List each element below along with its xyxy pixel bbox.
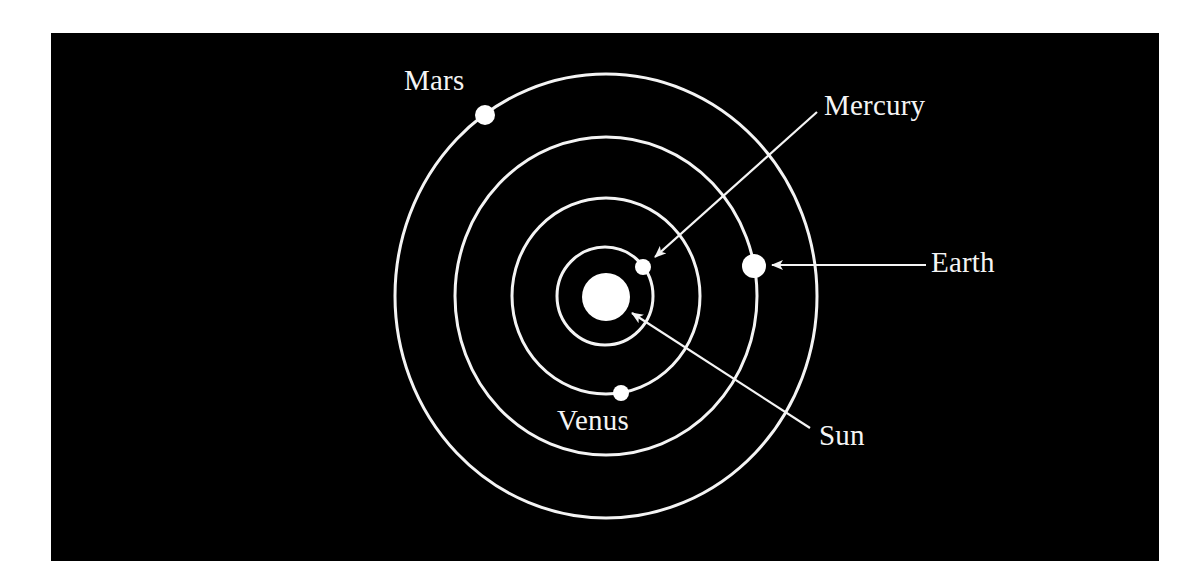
solar-system-diagram — [0, 0, 1203, 561]
mercury-leader-arrow — [655, 112, 817, 257]
label-venus: Venus — [557, 406, 629, 435]
planet-earth-dot — [742, 254, 766, 278]
planet-venus-dot — [613, 385, 629, 401]
sun-disc — [582, 273, 630, 321]
label-mars: Mars — [404, 66, 464, 95]
sun-leader-arrow — [632, 313, 810, 428]
planet-mercury-dot — [635, 259, 651, 275]
label-mercury: Mercury — [824, 91, 925, 120]
planet-mars-dot — [475, 105, 495, 125]
label-sun: Sun — [819, 421, 865, 450]
label-earth: Earth — [931, 248, 995, 277]
